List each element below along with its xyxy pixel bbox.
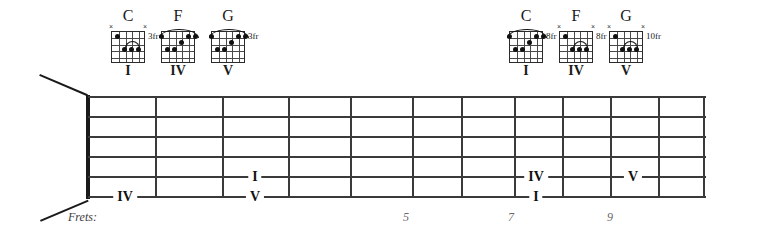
fret-line: [155, 96, 157, 198]
chord-fret-line: [162, 45, 194, 46]
string-line: [88, 136, 706, 138]
neck-edge-top: [39, 74, 88, 96]
finger-dot: [136, 47, 141, 52]
fret-line: [288, 96, 290, 198]
fret-number: 7: [508, 210, 514, 225]
fretboard-chart-figure: C××3frIFIVG3frV C8frIF××8frIVG××10frV IV…: [0, 0, 776, 240]
string-line: [88, 96, 706, 98]
chord-fret-line: [610, 58, 642, 59]
finger-dot: [570, 47, 575, 52]
fret-line: [562, 96, 564, 198]
fret-position-label: 3fr: [148, 32, 159, 41]
finger-dot: [534, 34, 539, 39]
chord-fret-line: [212, 45, 244, 46]
fret-line: [412, 96, 414, 198]
chord-name: G: [603, 8, 649, 24]
string-line: [88, 176, 706, 178]
chord-name: F: [155, 8, 201, 24]
chord-degree-label: I: [105, 64, 151, 78]
finger-dot: [634, 47, 639, 52]
finger-dot: [520, 47, 525, 52]
muted-string-x-icon: ×: [557, 23, 561, 30]
finger-dot: [209, 34, 214, 39]
chord-fret-line: [112, 58, 144, 59]
degree-marker-i: I: [529, 190, 542, 204]
fret-number: 9: [607, 210, 613, 225]
finger-dot: [159, 34, 164, 39]
fret-line: [514, 96, 516, 198]
chord-grid: ××10fr: [609, 31, 643, 63]
finger-dot: [193, 34, 198, 39]
frets-label: Frets:: [68, 210, 97, 225]
degree-marker-iv: IV: [113, 190, 137, 204]
finger-dot: [236, 34, 241, 39]
chord-grid: [161, 31, 195, 63]
finger-dot: [186, 34, 191, 39]
fret-position-label: 8fr: [596, 32, 607, 41]
muted-string-x-icon: ×: [641, 23, 645, 30]
finger-dot: [507, 34, 512, 39]
fret-position-label: 8fr: [546, 32, 557, 41]
chord-fret-line: [560, 58, 592, 59]
muted-string-x-icon: ×: [109, 23, 113, 30]
string-line: [88, 156, 706, 158]
fretboard: [88, 96, 706, 198]
fret-line: [222, 96, 224, 198]
chord-name: C: [105, 8, 151, 24]
finger-dot: [577, 47, 582, 52]
chord-grid: 8fr: [509, 31, 543, 63]
muted-string-x-icon: ×: [591, 23, 595, 30]
chord-degree-label: V: [603, 64, 649, 78]
finger-dot: [627, 47, 632, 52]
finger-dot: [541, 34, 546, 39]
fret-line: [610, 96, 612, 198]
finger-dot: [222, 47, 227, 52]
chord-name: C: [503, 8, 549, 24]
degree-marker-iv: IV: [524, 170, 548, 184]
fret-line: [703, 96, 705, 198]
fret-number: 5: [403, 210, 409, 225]
finger-dot: [129, 47, 134, 52]
chord-grid: ××8fr: [559, 31, 593, 63]
finger-dot: [584, 47, 589, 52]
chord-fret-line: [510, 45, 542, 46]
chord-degree-label: I: [503, 64, 549, 78]
muted-string-x-icon: ×: [143, 23, 147, 30]
fret-position-label: 10fr: [646, 32, 661, 41]
fret-line: [461, 96, 463, 198]
fret-line: [350, 96, 352, 198]
string-line: [88, 116, 706, 118]
string-line: [88, 196, 706, 198]
degree-marker-v: V: [246, 190, 264, 204]
chord-fret-line: [212, 58, 244, 59]
degree-marker-v: V: [624, 170, 642, 184]
chord-grid: 3fr: [211, 31, 245, 63]
finger-dot: [172, 47, 177, 52]
finger-dot: [122, 47, 127, 52]
chord-name: G: [205, 8, 251, 24]
chord-degree-label: IV: [155, 64, 201, 78]
chord-grid: ××3fr: [111, 31, 145, 63]
chord-degree-label: IV: [553, 64, 599, 78]
fret-line: [658, 96, 660, 198]
chord-fret-line: [162, 58, 194, 59]
degree-marker-i: I: [248, 170, 261, 184]
chord-fret-line: [510, 58, 542, 59]
finger-dot: [620, 47, 625, 52]
chord-name: F: [553, 8, 599, 24]
fret-position-label: 3fr: [248, 32, 259, 41]
finger-dot: [243, 34, 248, 39]
muted-string-x-icon: ×: [607, 23, 611, 30]
chord-degree-label: V: [205, 64, 251, 78]
